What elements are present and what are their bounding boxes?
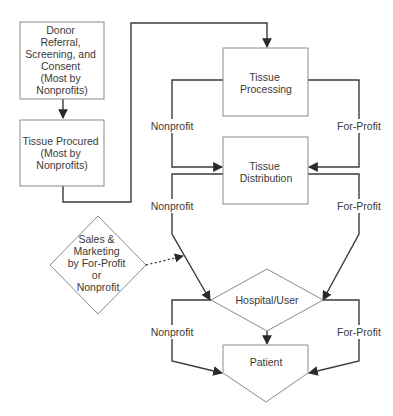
sales-line-3: by For-Profit <box>68 257 126 269</box>
node-tissue-procured: Tissue Procured (Most by Nonprofits) <box>20 120 104 186</box>
sales-line-1: Sales & <box>78 233 114 245</box>
label-forprofit-1: For-Profit <box>337 120 381 132</box>
sales-line-4: or <box>92 269 102 281</box>
procured-line-2: (Most by <box>40 147 81 159</box>
processing-line-2: Processing <box>240 83 292 95</box>
label-nonprofit-1: Nonprofit <box>151 120 194 132</box>
edge-label-distribution-nonprofit: Nonprofit <box>150 199 194 213</box>
procured-line-1: Tissue Procured <box>23 135 99 147</box>
donor-line-6: Nonprofits) <box>36 84 87 96</box>
sales-line-5: Nonprofit <box>77 281 120 293</box>
node-tissue-distribution: Tissue Distribution <box>223 137 308 204</box>
node-patient: Patient <box>223 345 308 402</box>
distribution-line-2: Distribution <box>240 172 293 184</box>
edge-label-hospital-forprofit: For-Profit <box>336 325 382 339</box>
donor-line-3: Screening, and <box>25 48 96 60</box>
label-forprofit-3: For-Profit <box>337 326 381 338</box>
edge-label-processing-nonprofit: Nonprofit <box>150 119 194 133</box>
node-sales-marketing: Sales & Marketing by For-Profit or Nonpr… <box>50 216 146 314</box>
donor-line-5: (Most by <box>40 72 81 84</box>
donor-line-2: Referral, <box>40 36 80 48</box>
hospital-label: Hospital/User <box>235 294 299 306</box>
label-nonprofit-2: Nonprofit <box>151 200 194 212</box>
edge-distribution-to-hospital-forprofit <box>308 174 359 300</box>
processing-line-1: Tissue <box>249 71 280 83</box>
tissue-flow-diagram: Donor Referral, Screening, and Consent (… <box>0 0 393 416</box>
edge-label-hospital-nonprofit: Nonprofit <box>150 325 194 339</box>
label-forprofit-2: For-Profit <box>337 200 381 212</box>
procured-line-3: Nonprofits) <box>36 159 87 171</box>
node-donor-referral: Donor Referral, Screening, and Consent (… <box>20 22 104 99</box>
node-tissue-processing: Tissue Processing <box>223 48 308 116</box>
sales-line-2: Marketing <box>73 245 119 257</box>
label-nonprofit-3: Nonprofit <box>151 326 194 338</box>
edge-label-distribution-forprofit: For-Profit <box>336 199 382 213</box>
donor-line-4: Consent <box>41 60 80 72</box>
patient-label: Patient <box>250 356 283 368</box>
distribution-line-1: Tissue <box>249 160 280 172</box>
edge-sales-to-distribution-branch <box>146 256 183 265</box>
edge-distribution-to-hospital-nonprofit <box>172 174 223 300</box>
edge-label-processing-forprofit: For-Profit <box>336 119 382 133</box>
node-hospital-user: Hospital/User <box>211 269 323 331</box>
donor-line-1: Donor <box>46 24 75 36</box>
